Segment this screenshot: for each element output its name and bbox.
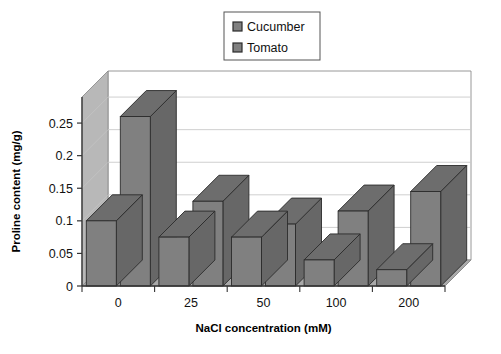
bar-front-face	[304, 260, 334, 286]
chart-container: 00.050.10.150.20.2502550100200NaCl conce…	[0, 0, 501, 354]
legend-item-tomato[interactable]: Tomato	[233, 41, 288, 55]
bar-front-face	[86, 221, 116, 286]
y-tick-label-0: 0	[66, 280, 73, 294]
y-tick-label-4: 0.2	[56, 149, 73, 163]
x-axis-title: NaCl concentration (mM)	[195, 322, 331, 334]
x-tick-label-2: 50	[257, 296, 271, 310]
proline-3d-bar-chart: 00.050.10.150.20.2502550100200NaCl conce…	[0, 0, 501, 354]
y-tick-label-2: 0.1	[56, 214, 73, 228]
legend-label-cucumber: Cucumber	[247, 20, 305, 34]
bar-front-face	[377, 270, 407, 286]
x-tick-label-3: 100	[326, 296, 347, 310]
y-tick-label-5: 0.25	[49, 117, 73, 131]
y-tick-label-1: 0.05	[49, 247, 73, 261]
bar-front-face	[159, 237, 189, 286]
x-tick-label-1: 25	[184, 296, 198, 310]
legend-swatch-tomato	[233, 43, 242, 52]
legend-swatch-cucumber	[233, 22, 242, 31]
legend-label-tomato: Tomato	[247, 41, 288, 55]
y-tick-label-3: 0.15	[49, 182, 73, 196]
x-tick-label-4: 200	[398, 296, 419, 310]
bar-front-face	[232, 237, 262, 286]
x-tick-label-0: 0	[115, 296, 122, 310]
y-axis-title: Proline content (mg/g)	[10, 130, 22, 252]
